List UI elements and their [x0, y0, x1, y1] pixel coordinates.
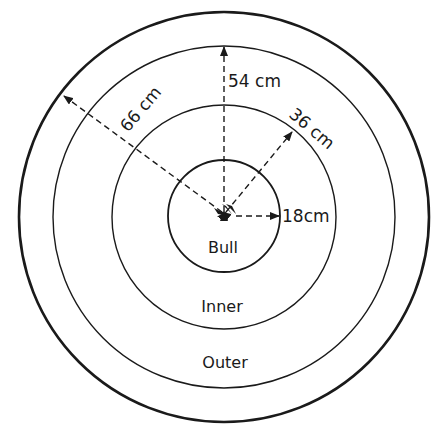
- r18-label: 18cm: [282, 206, 330, 226]
- inner-zone-label: Inner: [201, 297, 243, 316]
- center-arrow-cluster: [214, 204, 236, 216]
- outer-zone-label: Outer: [202, 353, 248, 372]
- bull-zone-label: Bull: [208, 238, 238, 257]
- r54-label: 54 cm: [228, 71, 281, 91]
- target-diagram: 66 cm 54 cm 36 cm 18cm Bull Inner Outer: [0, 0, 442, 433]
- r36-dimension-line: [226, 132, 292, 212]
